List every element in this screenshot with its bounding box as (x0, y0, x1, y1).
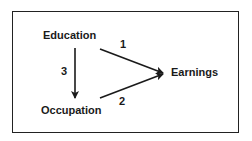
edge-3-label: 3 (61, 66, 67, 77)
edge-1-label: 1 (120, 39, 126, 50)
node-education: Education (43, 30, 96, 41)
edge-1-arrow (100, 49, 163, 73)
node-earnings: Earnings (171, 67, 218, 78)
edge-2-arrow (100, 74, 163, 98)
edge-2-label: 2 (119, 96, 125, 107)
node-occupation: Occupation (41, 105, 102, 116)
